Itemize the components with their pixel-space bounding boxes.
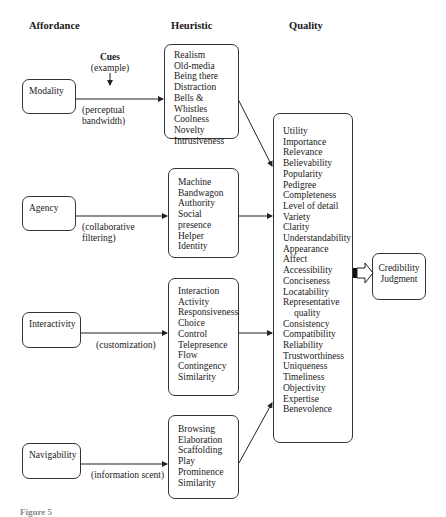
- heuristic-item: Elaboration: [178, 435, 238, 446]
- heuristic-item: Control: [178, 329, 238, 340]
- quality-item: Completeness: [283, 190, 352, 201]
- quality-item: Consistency: [283, 319, 352, 330]
- heuristic-box-interactivity: Interaction Activity Responsiveness Choi…: [168, 278, 239, 396]
- arrow-heuristic4-to-quality: [239, 403, 272, 463]
- heuristic-box-modality: Realism Old-media Being there Distractio…: [164, 44, 239, 139]
- cue-label-modality: (perceptual bandwidth): [82, 105, 125, 126]
- quality-item: Objectivity: [283, 383, 352, 394]
- heuristic-item: Identity: [178, 241, 238, 252]
- block-arrow-to-credibility: [353, 263, 373, 283]
- quality-item: Pedigree: [283, 180, 352, 191]
- quality-item: Relevance: [283, 147, 352, 158]
- heuristic-item: Machine: [178, 177, 238, 188]
- quality-item: Locatability: [283, 287, 352, 298]
- arrow-heuristic1-to-quality: [238, 99, 272, 166]
- figure-caption: Figure 5: [20, 507, 52, 517]
- header-affordance: Affordance: [29, 20, 80, 31]
- quality-item: Uniqueness: [283, 361, 352, 372]
- cue-line: (customization): [96, 340, 156, 351]
- heuristic-item: Bandwagon: [178, 188, 238, 199]
- outcome-line: Credibility: [373, 263, 425, 274]
- cue-line: (perceptual: [82, 105, 125, 116]
- quality-item: Popularity: [283, 169, 352, 180]
- quality-item: Conciseness: [283, 276, 352, 287]
- heuristic-item: Coolness: [174, 114, 238, 125]
- affordance-box-navigability: Navigability: [22, 443, 81, 479]
- cues-label: Cues (example): [90, 52, 130, 73]
- heuristic-item: Helper: [178, 231, 238, 242]
- outcome-line: Judgment: [373, 274, 425, 285]
- heuristic-item: Old-media: [174, 61, 238, 72]
- heuristic-item: Similarity: [178, 372, 238, 383]
- heuristic-item: Bells &: [174, 93, 238, 104]
- affordance-box-modality: Modality: [22, 79, 76, 114]
- heuristic-item: Authority: [178, 198, 238, 209]
- quality-item: Appearance: [283, 244, 352, 255]
- quality-item: Representative: [283, 297, 352, 308]
- quality-item: Reliability: [283, 340, 352, 351]
- heuristic-item: Telepresence: [178, 340, 238, 351]
- heuristic-item: Novelty: [174, 125, 238, 136]
- cue-label-interactivity: (customization): [96, 340, 156, 351]
- heuristic-item: Contingency: [178, 361, 238, 372]
- quality-item: Accessibility: [283, 265, 352, 276]
- quality-item: Understandability: [283, 233, 352, 244]
- heuristic-item: Play: [178, 456, 238, 467]
- heuristic-item: Activity: [178, 297, 238, 308]
- heuristic-item: Browsing: [178, 424, 238, 435]
- cues-subtitle: (example): [90, 63, 130, 74]
- heuristic-item: Being there: [174, 71, 238, 82]
- header-heuristic: Heuristic: [171, 20, 212, 31]
- quality-item: Trustworthiness: [283, 351, 352, 362]
- header-quality: Quality: [289, 20, 323, 31]
- affordance-label: Modality: [29, 86, 64, 96]
- heuristic-item: Realism: [174, 50, 238, 61]
- heuristic-item: Intrusiveness: [174, 136, 238, 147]
- heuristic-item: Social: [178, 209, 238, 220]
- quality-item: Compatibility: [283, 329, 352, 340]
- heuristic-item: Scaffolding: [178, 445, 238, 456]
- cues-title: Cues: [100, 52, 120, 62]
- cue-line: (collaborative: [82, 222, 135, 233]
- affordance-label: Interactivity: [29, 319, 75, 329]
- quality-item: Believability: [283, 158, 352, 169]
- credibility-judgment-box: Credibility Judgment: [372, 253, 426, 300]
- quality-item: Variety: [283, 212, 352, 223]
- heuristic-item: Responsiveness: [178, 307, 238, 318]
- cue-line: (information scent): [91, 470, 164, 481]
- heuristic-item: Whistles: [174, 104, 238, 115]
- quality-item: Timeliness: [283, 372, 352, 383]
- affordance-box-agency: Agency: [22, 196, 76, 231]
- quality-item: Level of detail: [283, 201, 352, 212]
- heuristic-item: Interaction: [178, 286, 238, 297]
- cue-label-agency: (collaborative filtering): [82, 222, 135, 243]
- heuristic-item: Similarity: [178, 478, 238, 489]
- cue-line: filtering): [82, 233, 135, 244]
- quality-item: quality: [283, 308, 352, 319]
- cue-line: bandwidth): [82, 116, 125, 127]
- cue-label-navigability: (information scent): [91, 470, 164, 481]
- heuristic-item: Flow: [178, 350, 238, 361]
- quality-item: Expertise: [283, 394, 352, 405]
- affordance-label: Agency: [29, 203, 59, 213]
- quality-box: Utility Importance Relevance Believabili…: [273, 113, 353, 443]
- heuristic-item: presence: [178, 220, 238, 231]
- quality-item: Utility: [283, 126, 352, 137]
- heuristic-item: Distraction: [174, 82, 238, 93]
- quality-item: Affect: [283, 254, 352, 265]
- heuristic-item: Choice: [178, 318, 238, 329]
- heuristic-box-agency: Machine Bandwagon Authority Social prese…: [168, 168, 239, 258]
- quality-item: Clarity: [283, 222, 352, 233]
- affordance-box-interactivity: Interactivity: [22, 312, 81, 348]
- heuristic-item: Prominence: [178, 467, 238, 478]
- quality-item: Benevolence: [283, 404, 352, 415]
- heuristic-box-navigability: Browsing Elaboration Scaffolding Play Pr…: [168, 415, 239, 499]
- affordance-label: Navigability: [29, 450, 77, 460]
- quality-item: Importance: [283, 137, 352, 148]
